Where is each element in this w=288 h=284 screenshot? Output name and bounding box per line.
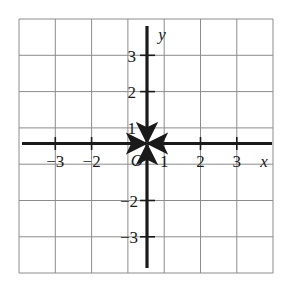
coordinate-plane-svg: 3 2 1 −2 −3 −3 −2 1 2 3 O x y [0,0,288,284]
x-tick-label-3: 3 [233,152,242,171]
x-tick-label-1: 1 [160,152,169,171]
x-tick-label-neg-2: −2 [83,152,101,171]
y-tick-label-neg-2: −2 [120,192,138,211]
y-tick-label-2: 2 [128,83,137,102]
coordinate-plane-figure: 3 2 1 −2 −3 −3 −2 1 2 3 O x y [0,0,288,284]
x-tick-label-neg-3: −3 [46,152,64,171]
x-tick-label-2: 2 [196,152,205,171]
origin-label: O [131,151,143,170]
y-tick-label-1: 1 [128,119,137,138]
y-tick-label-3: 3 [128,47,137,66]
x-axis-name: x [259,152,268,171]
y-tick-label-neg-3: −3 [120,228,138,247]
y-axis-name: y [156,25,166,44]
